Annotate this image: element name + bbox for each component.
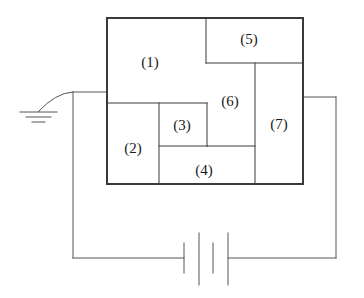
region-label-4: (4)	[195, 162, 213, 179]
partitioned-box	[107, 18, 303, 184]
box-outline	[107, 18, 303, 184]
region-label-5: (5)	[240, 31, 258, 48]
region-label-6: (6)	[221, 93, 239, 110]
region-label-2: (2)	[124, 140, 142, 157]
battery-symbol	[184, 233, 228, 285]
region-label-3: (3)	[173, 117, 191, 134]
circuit-diagram	[0, 0, 364, 298]
region-label-1: (1)	[141, 54, 159, 71]
box-partitions	[107, 18, 303, 184]
region-label-7: (7)	[270, 116, 288, 133]
ground-symbol	[20, 92, 73, 122]
ground-lead	[38, 92, 73, 112]
diagram-canvas: (1) (2) (3) (4) (5) (6) (7)	[0, 0, 364, 298]
